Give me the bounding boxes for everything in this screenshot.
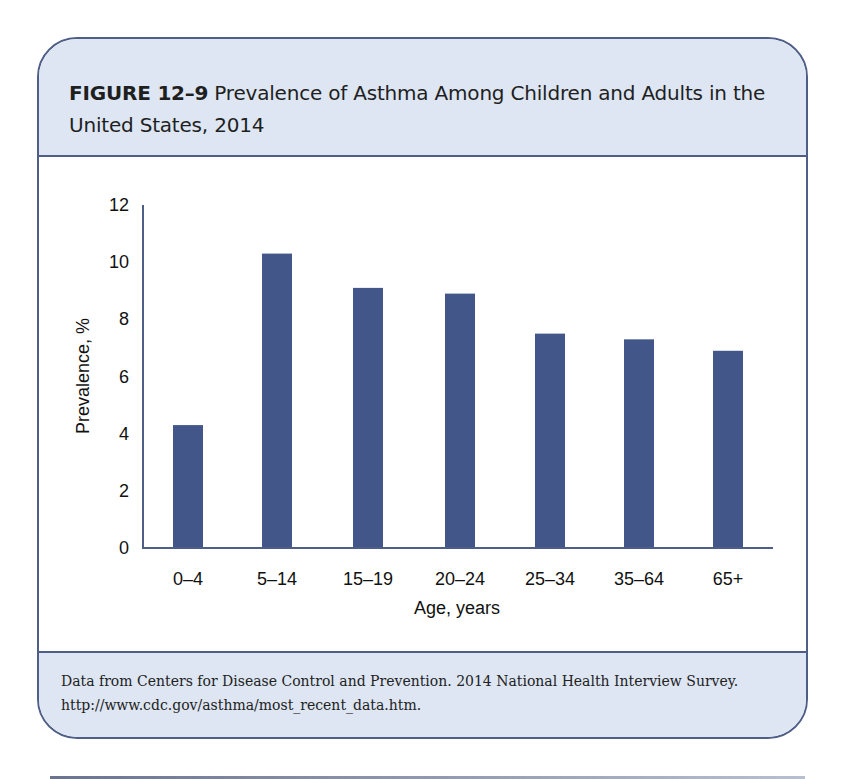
y-tick-label: 10 [109,252,129,272]
bar [535,334,565,548]
bar [173,425,203,548]
bar [445,294,475,548]
x-tick-label: 65+ [713,569,744,589]
bar [262,254,292,548]
y-tick-label: 2 [119,481,129,501]
x-tick-label: 25–34 [525,569,575,589]
y-tick-label: 12 [109,195,129,215]
x-tick-label: 35–64 [614,569,664,589]
y-tick-label: 6 [119,367,129,387]
bar [624,339,654,548]
y-tick-label: 4 [119,424,129,444]
chart-canvas: 0–45–1415–1920–2425–3435–6465+024681012A… [0,0,855,779]
x-tick-label: 0–4 [173,569,203,589]
y-tick-label: 0 [119,538,129,558]
bar [353,288,383,548]
x-tick-label: 20–24 [435,569,485,589]
x-tick-label: 5–14 [257,569,297,589]
y-tick-label: 8 [119,309,129,329]
x-tick-label: 15–19 [343,569,393,589]
x-axis-label: Age, years [414,598,500,618]
bar-chart: 0–45–1415–1920–2425–3435–6465+024681012A… [0,0,855,779]
y-axis-label: Prevalence, % [73,318,93,434]
bar [713,351,743,548]
